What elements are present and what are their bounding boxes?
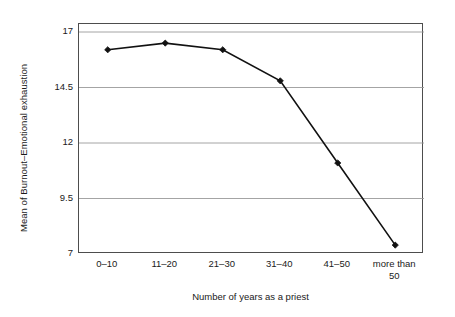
x-axis-tick-label-line1: more than: [358, 258, 430, 270]
data-point-marker: [105, 47, 111, 53]
x-axis-tick-labels: 0–1011–2021–3031–4041–50more than50: [78, 258, 423, 288]
plot-area: [78, 23, 423, 253]
y-axis-title: Mean of Burnout–Emotional exhaustion: [15, 23, 33, 273]
data-point-marker: [220, 47, 226, 53]
y-axis-tick-label: 7: [52, 248, 73, 258]
y-axis-tick-label: 12: [52, 137, 73, 147]
chart-figure: Mean of Burnout–Emotional exhaustion 171…: [0, 0, 455, 317]
y-axis-tick-label: 17: [52, 26, 73, 36]
x-axis-tick-label-line2: 50: [358, 270, 430, 282]
x-axis-tick-label: more than50: [358, 258, 430, 281]
x-axis-title: Number of years as a priest: [78, 291, 423, 303]
data-point-marker: [162, 40, 168, 46]
series-markers: [105, 40, 399, 248]
data-series-group: [105, 40, 399, 248]
series-line: [108, 43, 396, 245]
gridlines: [79, 32, 424, 199]
line-chart-svg: [79, 24, 424, 254]
y-axis-tick-label: 14.5: [52, 82, 73, 92]
y-axis-tick-label: 9.5: [52, 193, 73, 203]
